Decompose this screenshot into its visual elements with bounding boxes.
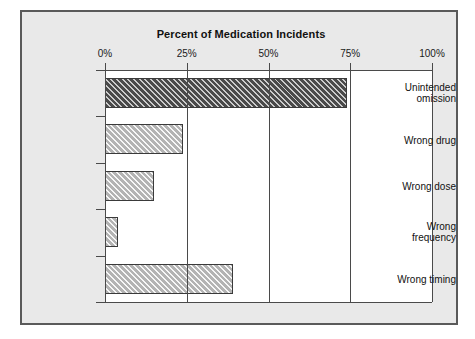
bar-unintended-omission (105, 78, 347, 108)
xtick-label-25: 25% (177, 48, 197, 59)
gridline-50 (269, 70, 270, 302)
bar-wrong-frequency (105, 217, 118, 247)
axis-left (105, 70, 106, 302)
category-label-wrong-drug: Wrong drug (378, 134, 456, 145)
category-label-wrong-frequency: Wrong frequency (378, 221, 456, 243)
xtick-label-0: 0% (98, 48, 112, 59)
chart-title: Percent of Medication Incidents (22, 28, 460, 40)
ytick-mark-3 (96, 209, 105, 210)
ytick-mark-5 (96, 302, 105, 303)
chart-card: Percent of Medication Incidents 0% 25% 5… (20, 10, 458, 325)
category-label-wrong-timing: Wrong timing (378, 273, 456, 284)
xtick-label-50: 50% (258, 48, 278, 59)
bar-wrong-timing (105, 264, 233, 294)
gridline-75 (350, 70, 351, 302)
category-label-wrong-dose: Wrong dose (378, 181, 456, 192)
bar-wrong-dose (105, 171, 154, 201)
axis-bottom (105, 302, 432, 303)
bar-wrong-drug (105, 124, 183, 154)
category-label-unintended-omission: Unintended omission (378, 82, 456, 104)
ytick-mark-0 (96, 70, 105, 71)
xtick-label-100: 100% (419, 48, 445, 59)
screenshot-root: Percent of Medication Incidents 0% 25% 5… (0, 0, 475, 339)
axis-top (105, 70, 432, 71)
ytick-mark-2 (96, 163, 105, 164)
ytick-mark-1 (96, 116, 105, 117)
gridline-25 (187, 70, 188, 302)
ytick-mark-4 (96, 256, 105, 257)
xtick-label-75: 75% (340, 48, 360, 59)
